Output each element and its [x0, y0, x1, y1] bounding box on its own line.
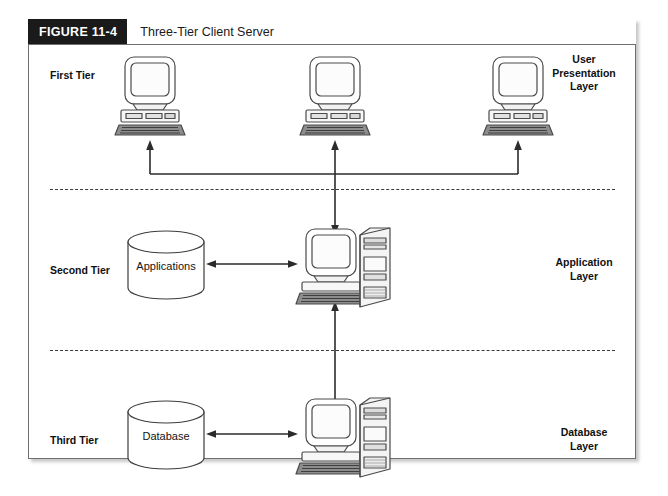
drive-slot: [146, 114, 162, 119]
tower-drive-bay: [364, 415, 386, 419]
drive-slot: [533, 114, 543, 119]
monitor-neck: [314, 446, 348, 452]
figure-number-tag: FIGURE 11-4: [28, 19, 127, 44]
system-base: [302, 282, 360, 291]
figure-root: FIGURE 11-4 Three-Tier Client Server Fir…: [0, 0, 668, 496]
arrowhead-up-right: [514, 140, 522, 150]
monitor-neck: [318, 104, 352, 110]
monitor-screen: [131, 63, 169, 96]
system-base: [302, 452, 360, 461]
database-server[interactable]: [298, 397, 394, 479]
client-workstation-center[interactable]: [298, 55, 372, 137]
figure-title: Three-Tier Client Server: [127, 19, 274, 44]
monitor-neck: [133, 104, 167, 110]
arrowhead-up-left: [146, 140, 154, 150]
arrowhead-right-applications: [288, 260, 298, 268]
drive-slot: [331, 114, 347, 119]
arrowhead-up-center: [331, 140, 339, 150]
tower-panel: [364, 257, 386, 271]
database-datastore-label: Database: [125, 430, 207, 442]
monitor-neck: [501, 104, 535, 110]
arrowhead-right-database: [288, 430, 298, 438]
drive-slot: [126, 114, 142, 119]
drive-slot: [494, 114, 510, 119]
drive-slot: [514, 114, 530, 119]
client-workstation-right[interactable]: [481, 55, 555, 137]
tower-panel: [364, 427, 386, 441]
tower-drive-bay: [364, 238, 386, 243]
drive-slot: [165, 114, 175, 119]
monitor-screen: [312, 235, 350, 268]
tower-drive-slot: [364, 444, 386, 450]
applications-datastore-label: Applications: [125, 260, 207, 272]
tower-drive-bay: [364, 245, 386, 249]
cylinder-top: [128, 231, 204, 253]
arrowhead-left-database: [206, 430, 216, 438]
tower-drive-slot: [364, 274, 386, 280]
application-server[interactable]: [298, 227, 394, 309]
client-workstation-left[interactable]: [113, 55, 187, 137]
figure-caption-bar: FIGURE 11-4 Three-Tier Client Server: [28, 19, 636, 45]
monitor-neck: [314, 276, 348, 282]
tower-drive-bay: [364, 408, 386, 413]
arrowhead-left-applications: [206, 260, 216, 268]
drive-slot: [350, 114, 360, 119]
drive-slot: [311, 114, 327, 119]
cylinder-top: [128, 401, 204, 423]
monitor-screen: [312, 405, 350, 438]
diagram-canvas: First Tier Second Tier Third Tier User P…: [29, 45, 635, 458]
monitor-screen: [499, 63, 537, 96]
monitor-screen: [316, 63, 354, 96]
